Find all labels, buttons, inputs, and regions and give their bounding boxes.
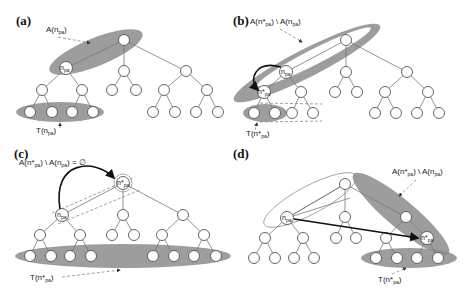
subtree-label: T(n*pa) (246, 129, 270, 139)
subtree-pointer-arrow (392, 268, 406, 274)
panel-d-label: (d) (233, 146, 249, 161)
ancestor-pointer-arrow (399, 180, 416, 196)
panel-b: (b) (228, 13, 445, 139)
subtree-label: T(npa) (36, 126, 57, 136)
ancestor-label: A(n*pa) \ A(npa) = ∅ (19, 158, 86, 168)
subtree-label: T(n*pa) (378, 275, 402, 285)
ancestor-pointer-arrow (58, 37, 90, 43)
subtree-label: T(n*pa) (30, 273, 54, 283)
ancestor-pointer-arrow (280, 29, 302, 42)
panel-a-label: (a) (16, 13, 31, 28)
panel-a: (a) (16, 13, 224, 136)
subtree-pointer-arrow (62, 270, 120, 277)
panel-c: (c) (14, 146, 231, 283)
panel-d: (d) (233, 146, 457, 285)
ancestor-label: A(npa) (46, 25, 67, 35)
panel-b-label: (b) (233, 13, 249, 28)
ancestor-label: A(n*pa) \ A(npa) (250, 17, 301, 27)
tree-diagram-figure: (a) (0, 0, 464, 297)
ancestor-label: A(n*pa) \ A(npa) (392, 167, 443, 177)
ancestor-npa-ellipse (258, 163, 363, 237)
